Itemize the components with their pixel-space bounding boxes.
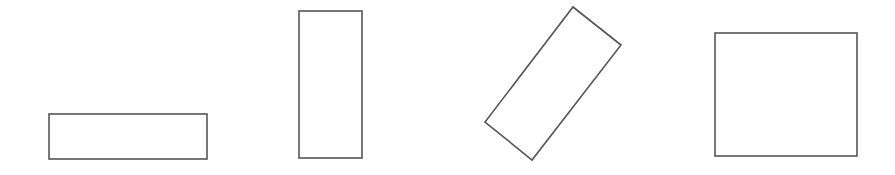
wide-rectangle	[49, 114, 207, 159]
square-ish-rectangle	[715, 33, 857, 156]
rotated-rectangle	[485, 7, 621, 160]
tall-rectangle	[299, 11, 362, 158]
diagram-canvas	[0, 0, 895, 175]
